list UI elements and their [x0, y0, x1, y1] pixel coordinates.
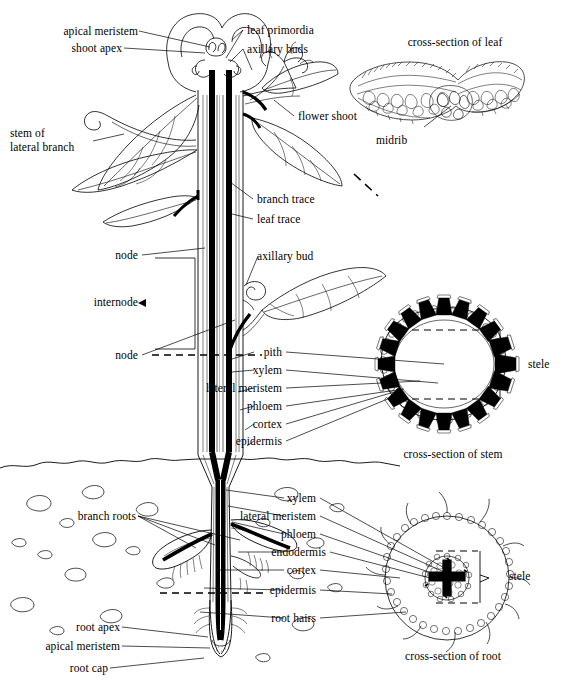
label-stem-of-lateral-branch-line1: stem of	[10, 126, 45, 140]
label-phloem-stem: phloem	[186, 400, 282, 413]
root-cross-section	[366, 492, 530, 652]
plant-anatomy-diagram: apical meristem shoot apex leaf primordi…	[0, 0, 561, 695]
label-xylem-stem: xylem	[186, 364, 282, 377]
label-axillary-buds: axillary buds	[247, 43, 308, 56]
label-xylem-root: xylem	[226, 492, 316, 505]
label-shoot-apex: shoot apex	[28, 42, 122, 55]
upper-left-foliage	[72, 95, 199, 227]
label-cortex-stem: cortex	[186, 418, 282, 431]
label-apical-meristem-shoot: apical meristem	[28, 25, 138, 38]
label-stem-of-lateral-branch-line2: lateral branch	[10, 140, 74, 154]
root-xylem-cross	[429, 560, 465, 596]
label-midrib: midrib	[376, 134, 407, 147]
label-node-upper: node	[92, 249, 138, 262]
leaf-cross-section	[350, 62, 524, 124]
label-stele-stem: stele	[528, 358, 550, 371]
label-cortex-root: cortex	[226, 564, 316, 577]
label-node-lower: node	[92, 349, 138, 362]
label-root-hairs: root hairs	[216, 612, 316, 625]
label-branch-roots: branch roots	[28, 510, 136, 523]
midrib-leader	[424, 106, 451, 127]
label-internode: internode	[62, 296, 138, 309]
label-cross-section-of-stem: cross-section of stem	[378, 448, 528, 461]
internode-bracket	[138, 258, 195, 349]
middle-right-foliage	[229, 268, 386, 352]
vascular-bundles	[375, 295, 519, 433]
label-lateral-meristem-root: lateral meristem	[200, 510, 316, 523]
label-pith: pith	[196, 346, 282, 359]
label-branch-trace: branch trace	[257, 193, 315, 206]
label-cross-section-of-root: cross-section of root	[378, 650, 528, 663]
leaf-dash-marker	[354, 174, 378, 196]
label-root-cap: root cap	[28, 662, 108, 675]
label-endodermis: endodermis	[216, 546, 326, 559]
label-stele-root: stele	[509, 570, 531, 583]
label-epidermis-root: epidermis	[216, 584, 316, 597]
stem-cross-section	[375, 295, 519, 433]
label-epidermis-stem: epidermis	[176, 435, 282, 448]
label-leaf-trace: leaf trace	[257, 213, 300, 226]
label-root-apex: root apex	[36, 621, 120, 634]
label-lateral-meristem-stem: lateral meristem	[166, 382, 282, 395]
main-stem	[198, 70, 243, 455]
label-apical-meristem-root: apical meristem	[10, 640, 120, 653]
label-leaf-primordia: leaf primordia	[247, 24, 314, 37]
label-flower-shoot: flower shoot	[298, 110, 357, 123]
label-phloem-root: phloem	[226, 528, 316, 541]
label-axillary-bud: axillary bud	[257, 250, 313, 263]
label-cross-section-of-leaf: cross-section of leaf	[385, 36, 525, 49]
